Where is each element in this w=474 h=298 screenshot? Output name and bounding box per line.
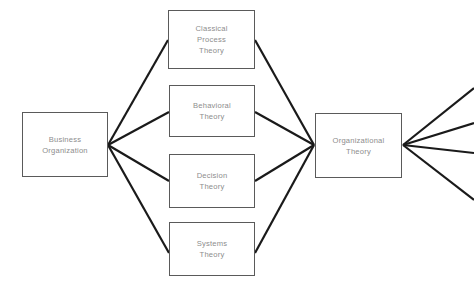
- node-label-systems-theory: Systems Theory: [197, 238, 228, 260]
- node-label-organizational-theory: Organizational Theory: [333, 135, 385, 157]
- node-box-organizational-theory[interactable]: Organizational Theory: [315, 113, 402, 178]
- diagram-edge-behavioral-to-org: [255, 112, 314, 145]
- node-box-behavioral-theory[interactable]: Behavioral Theory: [169, 85, 255, 137]
- node-label-decision-theory: Decision Theory: [197, 170, 228, 192]
- node-box-systems-theory[interactable]: Systems Theory: [169, 222, 255, 276]
- diagram-edge-bo-to-decision: [108, 145, 169, 181]
- diagram-edge-org-out-2: [403, 123, 474, 145]
- diagram-edge-classical-to-org: [255, 40, 314, 145]
- node-box-business-organization[interactable]: Business Organization: [22, 112, 108, 177]
- node-box-classical-process-theory[interactable]: Classical Process Theory: [168, 10, 255, 69]
- diagram-edge-systems-to-org: [255, 145, 314, 253]
- diagram-edge-decision-to-org: [255, 145, 314, 181]
- diagram-edge-org-out-1: [403, 88, 474, 145]
- diagram-edge-bo-to-systems: [108, 145, 169, 253]
- node-box-decision-theory[interactable]: Decision Theory: [169, 154, 255, 208]
- node-label-classical-process-theory: Classical Process Theory: [195, 23, 227, 56]
- node-label-behavioral-theory: Behavioral Theory: [193, 100, 231, 122]
- diagram-edge-org-out-3: [403, 145, 474, 153]
- diagram-canvas: Business OrganizationClassical Process T…: [0, 0, 474, 298]
- node-label-business-organization: Business Organization: [42, 134, 87, 156]
- diagram-edge-bo-to-classical: [108, 40, 168, 145]
- diagram-edge-org-out-4: [403, 145, 474, 200]
- diagram-edge-bo-to-behavioral: [108, 112, 169, 145]
